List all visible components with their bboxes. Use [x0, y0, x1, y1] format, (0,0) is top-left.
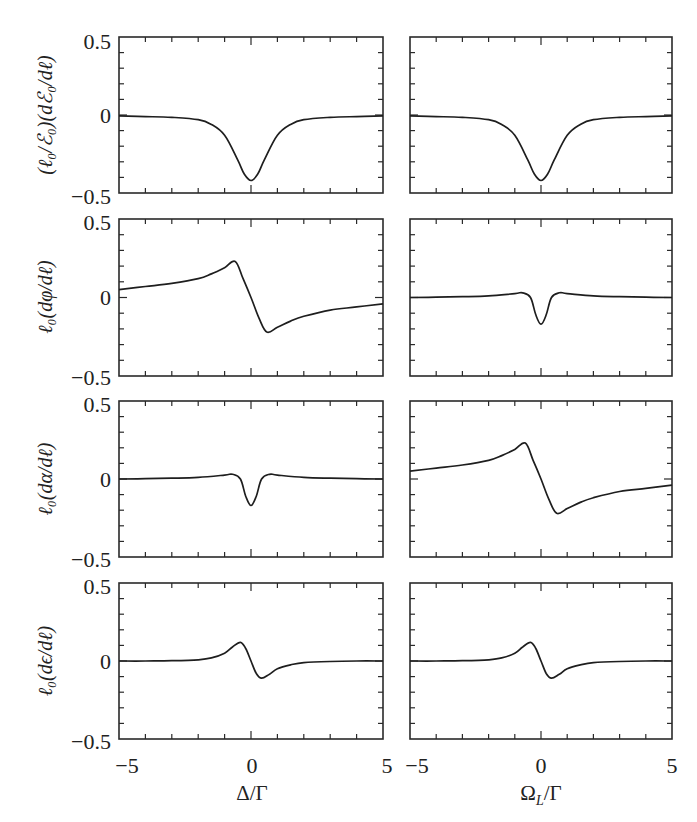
xlabel-left: Δ/Γ: [236, 781, 267, 805]
ylabel-row-1: ℓ₀(dφ/dℓ): [34, 260, 57, 334]
xlabel-right-subscript: L: [535, 793, 544, 808]
xtick-neg5-right: −5: [405, 753, 428, 778]
ylabel-row-0: (ℓ₀/ℰ₀)(dℰ₀/dℓ): [34, 55, 57, 175]
plot-frame: [410, 37, 672, 193]
curve-dispersive: [119, 261, 383, 332]
panel-r1-c0: [119, 219, 383, 376]
ytick-0.5-row-3: 0.5: [84, 574, 112, 599]
curve-small-dispersive: [119, 642, 383, 678]
panel-r2-c0: [119, 401, 383, 557]
ytick-neg0.5-row-2: −0.5: [71, 547, 111, 572]
panel-r0-c1: [410, 37, 672, 193]
curve-small-dispersive: [410, 642, 672, 678]
curve-lorentzian-dip: [119, 116, 383, 181]
ytick-neg0.5-row-0: −0.5: [71, 184, 111, 209]
plot-frame: [119, 37, 383, 193]
panel-r2-c1: [410, 401, 672, 557]
curve-dip-with-shoulders: [119, 474, 383, 505]
ytick-0-row-2: 0: [100, 467, 111, 492]
panel-r0-c0: [119, 37, 383, 193]
curve-dispersive: [410, 443, 672, 514]
xlabel-right-omega: Ω: [520, 781, 536, 805]
ylabel-row-2: ℓ₀(dα/dℓ): [34, 442, 57, 515]
ytick-0-row-3: 0: [100, 649, 111, 674]
xtick-0-right: 0: [536, 753, 547, 778]
panel-r1-c1: [410, 219, 672, 376]
panel-r3-c0: [119, 583, 383, 739]
xtick-0-left: 0: [247, 753, 258, 778]
panel-r3-c1: [410, 583, 672, 739]
xtick-5-right: 5: [667, 753, 678, 778]
figure-grid: (ℓ₀/ℰ₀)(dℰ₀/dℓ) ℓ₀(dφ/dℓ) ℓ₀(dα/dℓ) ℓ₀(d…: [0, 0, 697, 822]
xtick-5-left: 5: [382, 753, 393, 778]
ytick-0-row-0: 0: [100, 103, 111, 128]
ytick-0.5-row-2: 0.5: [84, 392, 112, 417]
ylabel-row-3: ℓ₀(dϵ/dℓ): [34, 625, 57, 696]
curve-lorentzian-dip: [410, 116, 672, 181]
ytick-0.5-row-0: 0.5: [84, 29, 112, 54]
ytick-0-row-1: 0: [100, 285, 111, 310]
ytick-0.5-row-1: 0.5: [84, 210, 112, 235]
ytick-neg0.5-row-1: −0.5: [71, 365, 111, 390]
curve-dip-with-shoulders: [410, 293, 672, 325]
xlabel-right-tail: /Γ: [544, 781, 562, 805]
ytick-neg0.5-row-3: −0.5: [71, 729, 111, 754]
xtick-neg5-left: −5: [115, 753, 138, 778]
xlabel-right: ΩL/Γ: [520, 781, 561, 808]
